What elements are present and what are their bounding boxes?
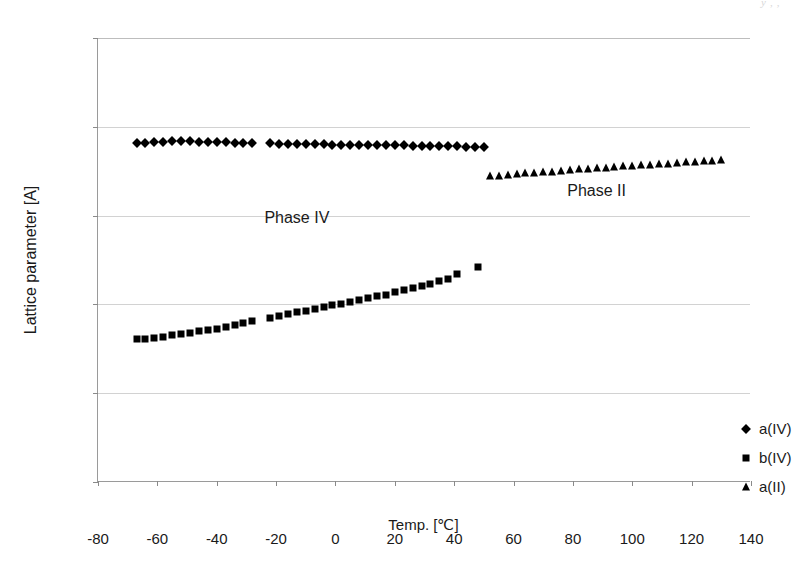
x-tick-mark [157,481,158,486]
x-tick-mark [395,481,396,486]
x-tick-label: 0 [305,530,365,547]
data-point-triangle [593,164,601,172]
data-point-triangle [664,159,672,167]
data-point-triangle [708,157,716,165]
chart-legend: a(IV)b(IV)a(II) [738,414,796,501]
annotation-phase-iv: Phase IV [264,209,329,227]
x-tick-label: -80 [68,530,128,547]
x-tick-label: 80 [543,530,603,547]
x-tick-mark [217,481,218,486]
legend-label: a(II) [759,478,786,495]
x-tick-label: 60 [484,530,544,547]
data-point-triangle [682,158,690,166]
y-axis-title: Lattice parameter [A] [18,38,44,482]
x-tick-label: 100 [602,530,662,547]
x-tick-mark [454,481,455,486]
x-tick-mark [573,481,574,486]
data-point-triangle [504,170,512,178]
x-tick-mark [276,481,277,486]
legend-marker-diamond-icon [738,421,754,437]
x-tick-mark [335,481,336,486]
data-point-triangle [495,171,503,179]
data-point-triangle [521,169,529,177]
data-point-triangle [637,161,645,169]
data-point-triangle [673,158,681,166]
data-point-triangle [700,157,708,165]
data-point-triangle [486,172,494,180]
data-point-triangle [575,165,583,173]
data-point-triangle [602,163,610,171]
data-point-triangle [548,167,556,175]
data-point-triangle [530,169,538,177]
legend-marker-square-icon [738,450,754,466]
legend-label: b(IV) [759,449,792,466]
x-tick-label: 20 [365,530,425,547]
x-tick-mark [514,481,515,486]
x-tick-mark [632,481,633,486]
legend-item-aii[interactable]: a(II) [738,472,796,501]
data-point-triangle [610,163,618,171]
legend-marker-triangle-icon [738,479,754,495]
annotation-phase-ii: Phase II [567,182,626,200]
data-point-triangle [655,160,663,168]
data-point-triangle [646,160,654,168]
x-tick-label: 40 [424,530,484,547]
x-tick-label: 140 [721,530,781,547]
data-point-triangle [539,168,547,176]
x-tick-label: -60 [127,530,187,547]
data-point-triangle [691,157,699,165]
x-tick-label: -40 [187,530,247,547]
series-aii [98,38,750,481]
x-tick-label: -20 [246,530,306,547]
page-header-remnant: y , , [400,0,780,10]
data-point-triangle [566,166,574,174]
data-point-triangle [628,161,636,169]
x-tick-mark [98,481,99,486]
x-tick-label: 120 [662,530,722,547]
data-point-triangle [584,165,592,173]
legend-item-aiv[interactable]: a(IV) [738,414,796,443]
legend-label: a(IV) [759,420,792,437]
data-point-triangle [619,162,627,170]
x-tick-mark [692,481,693,486]
plot-area: 55,25,45,65,86 -80-60-40-200204060801001… [97,38,750,482]
data-point-triangle [717,156,725,164]
legend-item-biv[interactable]: b(IV) [738,443,796,472]
data-point-triangle [513,170,521,178]
data-point-triangle [557,166,565,174]
